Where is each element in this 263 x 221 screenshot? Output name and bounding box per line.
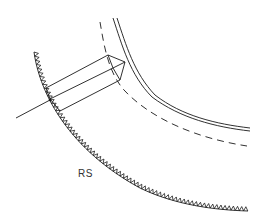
double-arc-inner bbox=[117, 18, 250, 128]
double-arc-outer bbox=[113, 18, 250, 131]
intersection-point bbox=[49, 99, 52, 102]
incident-ray bbox=[16, 100, 50, 118]
prism-mid-line bbox=[50, 68, 113, 99]
prism-end-bottom bbox=[120, 62, 125, 80]
prism-top-line bbox=[46, 55, 108, 88]
prism-bottom-line bbox=[60, 80, 120, 111]
diagram-canvas bbox=[0, 0, 263, 221]
region-label-rs: RS bbox=[78, 168, 93, 179]
